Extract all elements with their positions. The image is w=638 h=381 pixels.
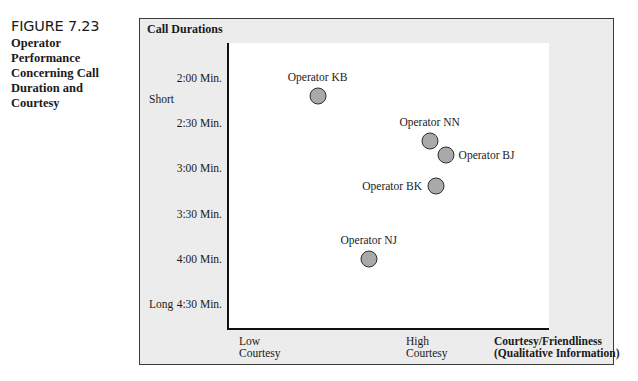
figure-caption: FIGURE 7.23 Operator Performance Concern… <box>11 18 136 111</box>
data-point-marker <box>309 88 326 105</box>
data-point-label: Operator NJ <box>341 234 398 247</box>
x-tick-line: Courtesy <box>406 347 448 359</box>
figure-title-line: Duration and <box>11 81 136 96</box>
y-axis-title: Call Durations <box>147 22 223 37</box>
data-point-marker <box>428 178 445 195</box>
y-tick-label: 3:30 Min. <box>177 207 222 220</box>
x-axis-title-line: Courtesy/Friendliness <box>494 335 620 347</box>
x-tick-label-high: High Courtesy <box>406 335 448 359</box>
y-category-label-long: Long <box>149 298 173 311</box>
data-point-label: Operator KB <box>288 71 348 84</box>
x-tick-line: Low <box>239 335 281 347</box>
data-point-label: Operator BJ <box>459 148 515 161</box>
figure-title-line: Courtesy <box>11 96 136 111</box>
y-tick-label: 4:30 Min. <box>177 298 222 311</box>
x-axis-title: Courtesy/Friendliness (Qualitative Infor… <box>494 335 620 359</box>
y-tick-label: 2:30 Min. <box>177 117 222 130</box>
y-category-label-short: Short <box>149 93 174 106</box>
figure-title-line: Concerning Call <box>11 66 136 81</box>
data-point-label: Operator BK <box>362 180 422 193</box>
x-axis-title-line: (Qualitative Information) <box>494 347 620 359</box>
data-point-marker <box>360 250 377 267</box>
x-axis-line <box>227 328 549 330</box>
y-axis-line <box>227 43 229 330</box>
data-point-marker <box>421 133 438 150</box>
y-tick-label: 2:00 Min. <box>177 72 222 85</box>
data-point-marker <box>437 146 454 163</box>
x-tick-line: Courtesy <box>239 347 281 359</box>
figure-title-line: Operator <box>11 36 136 51</box>
data-point-label: Operator NN <box>399 116 459 129</box>
y-tick-label: 4:00 Min. <box>177 252 222 265</box>
figure-title-line: Performance <box>11 51 136 66</box>
x-tick-line: High <box>406 335 448 347</box>
figure-number: FIGURE 7.23 <box>11 18 136 35</box>
x-tick-label-low: Low Courtesy <box>239 335 281 359</box>
y-tick-label: 3:00 Min. <box>177 162 222 175</box>
